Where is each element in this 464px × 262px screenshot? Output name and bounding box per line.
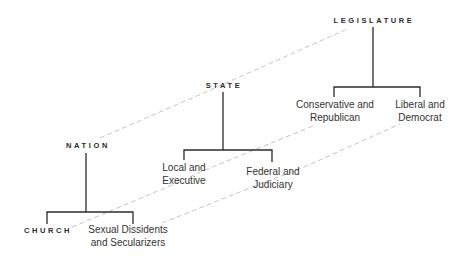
leaf-local-executive: Local and Executive — [162, 161, 205, 187]
node-legislature: LEGISLATURE — [334, 17, 415, 25]
tree-legislature — [334, 27, 421, 97]
leaf-line: and Secularizers — [88, 236, 167, 249]
node-state: STATE — [206, 82, 242, 90]
leaf-line: Sexual Dissidents — [88, 223, 167, 236]
leaf-line: Liberal and — [395, 98, 444, 111]
leaf-conservative-republican: Conservative and Republican — [296, 98, 374, 124]
leaf-line: Democrat — [395, 111, 444, 124]
leaf-line: Judiciary — [246, 178, 299, 191]
dashed-connectors — [72, 30, 400, 227]
diagram-lines — [0, 0, 464, 262]
leaf-line: Executive — [162, 174, 205, 187]
leaf-federal-judiciary: Federal and Judiciary — [246, 165, 299, 191]
leaf-liberal-democrat: Liberal and Democrat — [395, 98, 444, 124]
leaf-sexual-dissidents-secularizers: Sexual Dissidents and Secularizers — [88, 223, 167, 249]
leaf-line: Republican — [296, 111, 374, 124]
leaf-line: Federal and — [246, 165, 299, 178]
leaf-church: CHURCH — [24, 227, 72, 235]
tree-nation — [47, 153, 134, 224]
node-nation: NATION — [66, 142, 110, 150]
tree-state — [184, 92, 273, 162]
leaf-line: Local and — [162, 161, 205, 174]
leaf-line: Conservative and — [296, 98, 374, 111]
